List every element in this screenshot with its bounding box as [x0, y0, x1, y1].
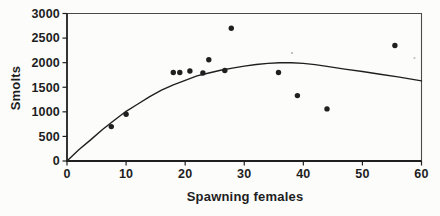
axis-lines [67, 14, 422, 162]
y-tick-label: 3000 [31, 7, 60, 21]
data-point [276, 70, 281, 75]
x-tick-label: 50 [355, 167, 369, 181]
scan-speckle [291, 52, 293, 54]
y-tick-label: 500 [39, 130, 60, 144]
x-tick-label: 40 [296, 167, 310, 181]
y-tick-label: 1000 [31, 105, 60, 119]
scan-speckles [291, 52, 416, 59]
data-point [109, 124, 114, 129]
y-axis-label: Smolts [8, 66, 23, 111]
data-point [392, 43, 397, 48]
data-point [222, 68, 227, 73]
data-point [295, 93, 300, 98]
data-point [229, 26, 234, 31]
data-point [187, 68, 192, 73]
smolts-vs-spawning-females-figure: 050010001500200025003000 0102030405060 S… [0, 0, 440, 216]
x-tick-label: 10 [119, 167, 133, 181]
fitted-recruitment-curve [67, 63, 422, 161]
data-point [177, 70, 182, 75]
scan-speckle [413, 57, 415, 59]
y-tick-label: 0 [53, 154, 60, 168]
fitted-curve [67, 63, 422, 161]
x-axis-label: Spawning females [187, 189, 304, 204]
data-point [171, 70, 176, 75]
x-tick-label: 30 [237, 167, 251, 181]
y-axis-ticks: 050010001500200025003000 [31, 7, 67, 169]
data-point [206, 57, 211, 62]
scatter-points [109, 26, 398, 130]
y-tick-label: 2000 [31, 56, 60, 70]
data-point [200, 70, 205, 75]
data-point [123, 112, 128, 117]
x-tick-label: 0 [63, 167, 70, 181]
x-tick-label: 60 [414, 167, 428, 181]
x-axis-ticks: 0102030405060 [63, 161, 428, 181]
y-tick-label: 1500 [31, 81, 60, 95]
y-tick-label: 2500 [31, 31, 60, 45]
x-tick-label: 20 [178, 167, 192, 181]
stock-recruitment-scatter-chart: 050010001500200025003000 0102030405060 S… [0, 0, 440, 216]
plot-frame [67, 14, 422, 162]
data-point [324, 106, 329, 111]
plot-border [67, 14, 422, 162]
